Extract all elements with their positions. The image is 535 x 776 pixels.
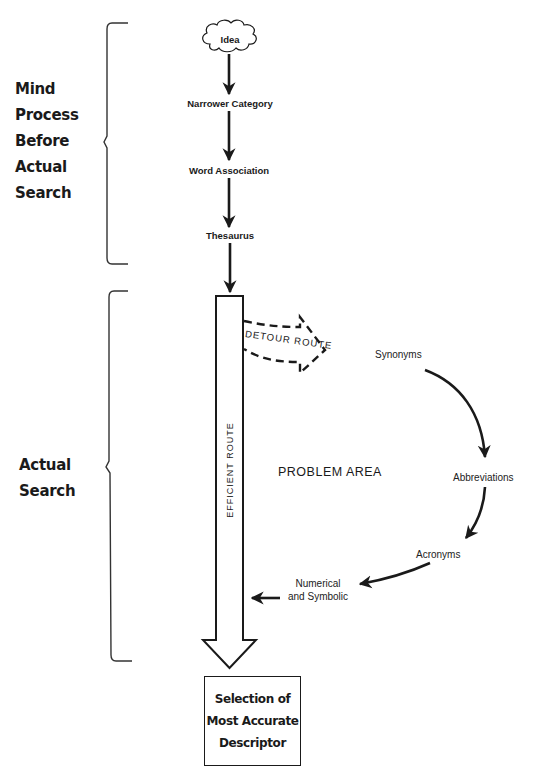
label-before-search: Mind Process Before Actual Search <box>15 76 79 206</box>
diagram-canvas <box>0 0 535 776</box>
outcome-box: Selection of Most Accurate Descriptor <box>204 676 301 766</box>
node-acronyms: Acronyms <box>416 549 460 560</box>
label-line: Actual <box>15 154 79 180</box>
arrow-synonyms-to-abbreviations <box>425 370 485 457</box>
arrow-acronyms-to-numerical <box>360 563 430 584</box>
label-line: and Symbolic <box>288 590 348 603</box>
node-numerical-symbolic: Numerical and Symbolic <box>288 577 348 603</box>
label-line: Actual <box>19 452 75 478</box>
node-word-association: Word Association <box>189 165 269 176</box>
label-problem-area: PROBLEM AREA <box>278 465 382 479</box>
label-line: Descriptor <box>219 732 286 754</box>
node-abbreviations: Abbreviations <box>453 472 514 483</box>
brace-before-search <box>104 23 128 264</box>
arrow-abbreviations-to-acronyms <box>466 487 485 538</box>
label-line: Selection of <box>215 688 291 710</box>
label-line: Before <box>15 128 79 154</box>
label-line: Most Accurate <box>207 710 299 732</box>
brace-actual-search <box>106 291 132 661</box>
node-thesaurus: Thesaurus <box>206 230 254 241</box>
label-line: Search <box>15 180 79 206</box>
node-narrower-category: Narrower Category <box>187 98 273 109</box>
label-efficient-route: EFFICIENT ROUTE <box>225 422 235 517</box>
node-synonyms: Synonyms <box>375 349 422 360</box>
label-line: Process <box>15 102 79 128</box>
label-actual-search: Actual Search <box>19 452 75 504</box>
node-idea: Idea <box>220 34 239 45</box>
label-line: Mind <box>15 76 79 102</box>
label-line: Numerical <box>288 577 348 590</box>
label-line: Search <box>19 478 75 504</box>
